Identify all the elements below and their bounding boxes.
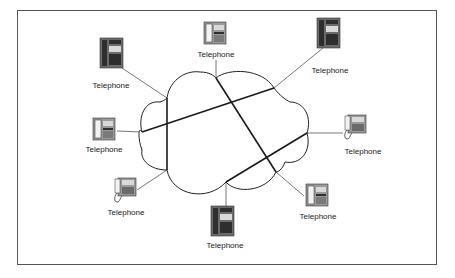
desk-telephone-icon [93, 118, 115, 140]
telephone-label: Telephone [86, 145, 123, 154]
telephone-network-diagram: TelephoneTelephoneTelephoneTelephoneTele… [0, 0, 455, 278]
telephone-label: Telephone [108, 208, 145, 217]
telephone-label: Telephone [345, 147, 382, 156]
telephone-label: Telephone [198, 50, 235, 59]
desk-telephone-icon [204, 22, 226, 44]
desk-telephone-icon [211, 206, 234, 236]
telephone-label: Telephone [207, 241, 244, 250]
desk-telephone-icon [317, 18, 340, 48]
telephone-label: Telephone [312, 66, 349, 75]
desk-telephone-icon [306, 184, 328, 206]
telephone-label: Telephone [300, 212, 337, 221]
telephone-label: Telephone [93, 81, 130, 90]
desk-telephone-icon [100, 38, 123, 68]
